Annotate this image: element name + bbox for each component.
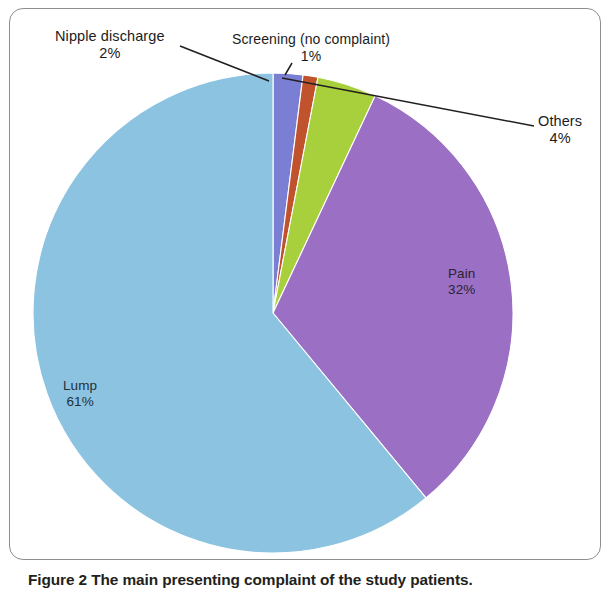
figure-caption-text: The main presenting complaint of the stu… — [91, 571, 472, 588]
figure-caption-number: Figure 2 — [28, 571, 87, 588]
slice-label-pain: Pain 32% — [448, 266, 475, 298]
slice-label-name: Screening (no complaint) — [232, 31, 390, 48]
slice-label-percent: 61% — [63, 394, 97, 410]
figure-caption: Figure 2 The main presenting complaint o… — [28, 571, 603, 589]
slice-label-nipple-discharge: Nipple discharge 2% — [55, 28, 165, 62]
slice-label-lump: Lump 61% — [63, 378, 97, 410]
slice-label-percent: 4% — [538, 130, 582, 147]
slice-label-screening: Screening (no complaint) 1% — [232, 31, 390, 64]
slice-label-percent: 2% — [55, 45, 165, 62]
slice-label-others: Others 4% — [538, 113, 582, 147]
slice-label-name: Lump — [63, 378, 97, 394]
slice-label-percent: 1% — [232, 48, 390, 65]
slice-label-name: Pain — [448, 266, 475, 282]
figure-container: Nipple discharge 2% Screening (no compla… — [0, 0, 609, 605]
chart-card — [9, 8, 601, 560]
slice-label-name: Others — [538, 113, 582, 130]
slice-label-name: Nipple discharge — [55, 28, 165, 45]
slice-label-percent: 32% — [448, 282, 475, 298]
pie-chart — [9, 8, 601, 560]
